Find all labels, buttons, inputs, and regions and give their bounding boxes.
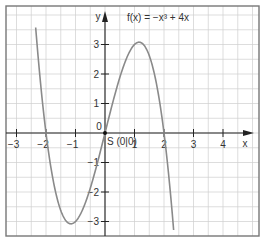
point-annotation-s: S (0|0) xyxy=(107,136,137,147)
function-label: f(x) = −x³ + 4x xyxy=(127,12,189,23)
origin-label: 0 xyxy=(96,121,102,132)
x-tick-label: −1 xyxy=(67,139,79,150)
x-tick-label: −3 xyxy=(8,139,20,150)
y-axis-label: y xyxy=(96,11,101,22)
y-tick-label: 3 xyxy=(93,39,99,50)
x-tick-label: 4 xyxy=(220,139,226,150)
y-tick-label: 2 xyxy=(93,69,99,80)
x-tick-label: 3 xyxy=(191,139,197,150)
origin-point xyxy=(103,131,107,135)
y-axis-arrow-icon xyxy=(102,11,108,22)
y-tick-label: 1 xyxy=(93,98,99,109)
y-tick-label: −3 xyxy=(88,216,100,227)
function-plot: −3−2−11234−3−2−1123 f(x) = −x³ + 4x x y … xyxy=(0,0,260,241)
x-axis-label: x xyxy=(243,138,248,149)
